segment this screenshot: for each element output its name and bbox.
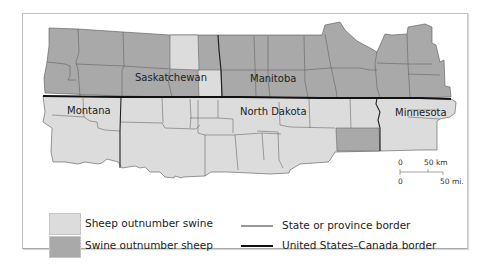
legend-label-state-border: State or province border <box>282 219 410 231</box>
scale-km-label: 50 km <box>424 158 448 167</box>
legend-label-sheep: Sheep outnumber swine <box>85 217 213 229</box>
scale-bar <box>400 169 443 175</box>
legend-swatch-sheep <box>49 213 81 235</box>
scale-mi-label: 50 mi. <box>440 177 464 186</box>
canada-swine-region <box>44 22 451 98</box>
scale-km-zero: 0 <box>398 158 403 167</box>
legend-swatch-swine <box>49 236 81 258</box>
canada-sheep-cell-north <box>170 35 199 70</box>
label-montana: Montana <box>67 105 111 116</box>
legend-label-national-border: United States–Canada border <box>282 239 436 251</box>
label-manitoba: Manitoba <box>250 73 296 84</box>
label-saskatchewan: Saskatchewan <box>135 72 207 83</box>
label-north-dakota: North Dakota <box>240 106 307 117</box>
label-minnesota: Minnesota <box>395 107 447 118</box>
scale-mi-zero: 0 <box>398 177 403 186</box>
us-swine-cell <box>336 128 380 151</box>
legend-label-swine: Swine outnumber sheep <box>85 239 213 251</box>
